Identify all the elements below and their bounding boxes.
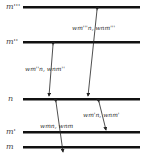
level-label-m1: m' bbox=[6, 128, 16, 136]
level-line-n bbox=[23, 98, 140, 101]
level-label-m3: m''' bbox=[6, 3, 20, 11]
rate-label-m0-n: wmn, wnm bbox=[40, 122, 73, 129]
level-label-n: n bbox=[8, 95, 13, 103]
rate-label-m1-n: wm'n, wnm' bbox=[83, 111, 120, 118]
rate-label-m3-n: wm'''n, wnm''' bbox=[72, 24, 115, 31]
level-line-m3 bbox=[23, 6, 140, 9]
level-label-m0: m bbox=[6, 143, 14, 151]
level-label-m2: m'' bbox=[6, 38, 18, 46]
level-line-m0 bbox=[23, 146, 140, 149]
transition-arrow-m3-n bbox=[88, 10, 97, 96]
rate-label-m2-n: wm''n, wnm'' bbox=[25, 65, 65, 72]
level-line-m2 bbox=[23, 41, 140, 44]
level-line-m1 bbox=[23, 131, 140, 134]
